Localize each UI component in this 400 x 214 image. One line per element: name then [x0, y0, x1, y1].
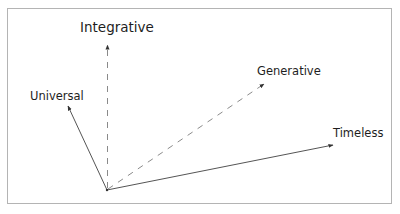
universal-vector	[68, 106, 107, 190]
integrative-label: Integrative	[80, 21, 154, 35]
origin-point	[106, 189, 108, 191]
generative-label: Generative	[257, 66, 321, 78]
timeless-vector	[107, 145, 333, 190]
universal-label: Universal	[30, 91, 84, 103]
vector-diagram	[0, 0, 400, 214]
generative-vector	[108, 84, 264, 189]
timeless-label: Timeless	[333, 128, 383, 140]
